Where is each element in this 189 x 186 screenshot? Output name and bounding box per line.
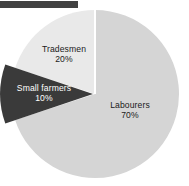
- chart-area: Tradesmen 20% Small farmers 10% Labourer…: [0, 0, 189, 186]
- pie-label-small-farmers: Small farmers 10%: [6, 83, 82, 103]
- pie-label-tradesmen: Tradesmen 20%: [32, 44, 96, 64]
- pie-label-labourers-name: Labourers: [98, 100, 162, 110]
- pie-label-small-farmers-name: Small farmers: [6, 83, 82, 93]
- pie-label-small-farmers-value: 10%: [6, 93, 82, 103]
- pie-label-labourers: Labourers 70%: [98, 100, 162, 120]
- pie-chart-figure: Tradesmen 20% Small farmers 10% Labourer…: [0, 0, 189, 186]
- pie-label-tradesmen-name: Tradesmen: [32, 44, 96, 54]
- pie-label-labourers-value: 70%: [98, 110, 162, 120]
- pie-label-tradesmen-value: 20%: [32, 54, 96, 64]
